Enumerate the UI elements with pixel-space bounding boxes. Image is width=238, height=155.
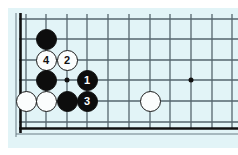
stone-black[interactable] — [57, 91, 78, 112]
stone-black[interactable] — [36, 29, 57, 50]
stone-label: 2 — [64, 54, 70, 65]
stone-black-move-1[interactable]: 1 — [77, 70, 98, 91]
stone-label: 4 — [43, 54, 49, 65]
stone-label: 3 — [84, 95, 90, 106]
stone-label: 1 — [84, 74, 90, 85]
board-edge-bottom — [16, 129, 238, 135]
go-diagram: 4 2 1 3 — [0, 0, 238, 155]
stone-white[interactable] — [16, 91, 37, 112]
grid-lines-vertical — [26, 14, 232, 128]
stone-black[interactable] — [36, 70, 57, 91]
star-point — [65, 78, 70, 83]
star-point — [189, 78, 194, 83]
stone-white[interactable] — [36, 91, 57, 112]
board-edge-left — [16, 13, 21, 137]
stone-black-move-3[interactable]: 3 — [77, 91, 98, 112]
stone-white-move-2[interactable]: 2 — [57, 50, 78, 71]
stone-white-move-4[interactable]: 4 — [36, 50, 57, 71]
stone-white[interactable] — [140, 91, 161, 112]
